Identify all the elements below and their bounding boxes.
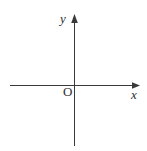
- y-axis-label: y: [60, 12, 66, 25]
- coordinate-axes-figure: y x O: [0, 0, 147, 151]
- y-axis-arrowhead-icon: [71, 14, 78, 23]
- axes-canvas: [0, 0, 147, 151]
- x-axis-label: x: [131, 88, 137, 101]
- origin-label: O: [63, 85, 72, 98]
